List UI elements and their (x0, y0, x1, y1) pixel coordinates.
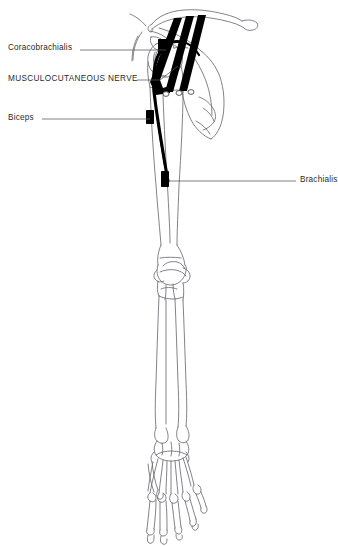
label-brachialis: Brachialis (300, 175, 338, 184)
root-ending-2 (176, 91, 182, 96)
root-ending-3 (188, 90, 194, 95)
marker-brachialis (161, 171, 169, 187)
root-ending-1 (163, 92, 169, 97)
label-coracobrachialis: Coracobrachialis (8, 43, 72, 52)
label-biceps: Biceps (8, 113, 34, 122)
marker-coracobrachialis (158, 39, 167, 54)
marker-biceps (146, 110, 154, 124)
label-musculocutaneous-nerve: MUSCULOCUTANEOUS NERVE (8, 74, 138, 83)
